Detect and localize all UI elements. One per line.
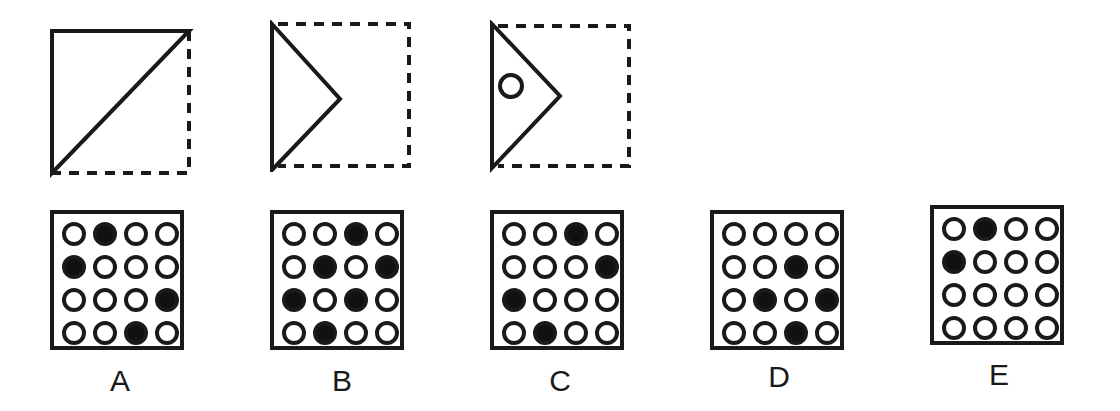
empty-circle-icon bbox=[722, 255, 746, 279]
empty-circle-icon bbox=[595, 288, 619, 312]
empty-circle-icon bbox=[1004, 250, 1028, 274]
empty-circle-icon bbox=[62, 321, 86, 345]
option-c-label: C bbox=[540, 364, 580, 398]
empty-circle-icon bbox=[124, 255, 148, 279]
filled-circle-icon bbox=[344, 222, 368, 246]
empty-circle-icon bbox=[282, 321, 306, 345]
empty-circle-icon bbox=[533, 222, 557, 246]
empty-circle-icon bbox=[1004, 316, 1028, 340]
empty-circle-icon bbox=[1004, 283, 1028, 307]
empty-circle-icon bbox=[564, 321, 588, 345]
empty-circle-icon bbox=[533, 255, 557, 279]
empty-circle-icon bbox=[62, 222, 86, 246]
empty-circle-icon bbox=[124, 222, 148, 246]
option-b-label: B bbox=[322, 364, 362, 398]
empty-circle-icon bbox=[722, 288, 746, 312]
filled-circle-icon bbox=[942, 250, 966, 274]
empty-circle-icon bbox=[815, 321, 839, 345]
filled-circle-icon bbox=[595, 255, 619, 279]
empty-circle-icon bbox=[784, 288, 808, 312]
option-b-grid[interactable] bbox=[270, 210, 404, 350]
empty-circle-icon bbox=[502, 222, 526, 246]
empty-circle-icon bbox=[973, 283, 997, 307]
empty-circle-icon bbox=[942, 316, 966, 340]
empty-circle-icon bbox=[344, 255, 368, 279]
empty-circle-icon bbox=[93, 321, 117, 345]
empty-circle-icon bbox=[973, 250, 997, 274]
empty-circle-icon bbox=[1035, 283, 1059, 307]
empty-circle-icon bbox=[815, 222, 839, 246]
dot-grid bbox=[722, 222, 839, 345]
empty-circle-icon bbox=[564, 288, 588, 312]
filled-circle-icon bbox=[155, 288, 179, 312]
empty-circle-icon bbox=[942, 217, 966, 241]
empty-circle-icon bbox=[155, 321, 179, 345]
empty-circle-icon bbox=[533, 288, 557, 312]
empty-circle-icon bbox=[564, 255, 588, 279]
dot-grid bbox=[62, 222, 179, 345]
empty-circle-icon bbox=[313, 222, 337, 246]
empty-circle-icon bbox=[973, 316, 997, 340]
option-d-label: D bbox=[759, 360, 799, 394]
empty-circle-icon bbox=[1035, 217, 1059, 241]
filled-circle-icon bbox=[375, 255, 399, 279]
empty-circle-icon bbox=[815, 255, 839, 279]
empty-circle-icon bbox=[124, 288, 148, 312]
empty-circle-icon bbox=[502, 255, 526, 279]
fold-step-1 bbox=[48, 26, 198, 178]
empty-circle-icon bbox=[722, 321, 746, 345]
empty-circle-icon bbox=[722, 222, 746, 246]
empty-circle-icon bbox=[375, 222, 399, 246]
filled-circle-icon bbox=[124, 321, 148, 345]
dot-grid bbox=[282, 222, 399, 345]
filled-circle-icon bbox=[313, 321, 337, 345]
empty-circle-icon bbox=[1035, 316, 1059, 340]
option-a-label: A bbox=[100, 364, 140, 398]
empty-circle-icon bbox=[93, 255, 117, 279]
option-d-grid[interactable] bbox=[710, 210, 844, 350]
empty-circle-icon bbox=[1004, 217, 1028, 241]
filled-circle-icon bbox=[93, 222, 117, 246]
option-a-grid[interactable] bbox=[50, 210, 184, 350]
filled-circle-icon bbox=[784, 321, 808, 345]
filled-circle-icon bbox=[564, 222, 588, 246]
empty-circle-icon bbox=[942, 283, 966, 307]
empty-circle-icon bbox=[93, 288, 117, 312]
empty-circle-icon bbox=[753, 222, 777, 246]
empty-circle-icon bbox=[375, 321, 399, 345]
filled-circle-icon bbox=[753, 288, 777, 312]
empty-circle-icon bbox=[595, 321, 619, 345]
empty-circle-icon bbox=[313, 288, 337, 312]
filled-circle-icon bbox=[973, 217, 997, 241]
empty-circle-icon bbox=[753, 321, 777, 345]
empty-circle-icon bbox=[595, 222, 619, 246]
filled-circle-icon bbox=[62, 255, 86, 279]
empty-circle-icon bbox=[155, 255, 179, 279]
filled-circle-icon bbox=[282, 288, 306, 312]
empty-circle-icon bbox=[753, 255, 777, 279]
dot-grid bbox=[502, 222, 619, 345]
empty-circle-icon bbox=[1035, 250, 1059, 274]
empty-circle-icon bbox=[282, 222, 306, 246]
filled-circle-icon bbox=[815, 288, 839, 312]
empty-circle-icon bbox=[282, 255, 306, 279]
fold-step-2 bbox=[268, 20, 416, 172]
filled-circle-icon bbox=[313, 255, 337, 279]
fold-step-3 bbox=[488, 20, 636, 176]
option-e-grid[interactable] bbox=[930, 205, 1064, 345]
empty-circle-icon bbox=[375, 288, 399, 312]
dot-grid bbox=[942, 217, 1059, 340]
filled-circle-icon bbox=[344, 288, 368, 312]
empty-circle-icon bbox=[784, 222, 808, 246]
option-e-label: E bbox=[979, 358, 1019, 392]
empty-circle-icon bbox=[155, 222, 179, 246]
punched-hole-icon bbox=[500, 75, 522, 97]
empty-circle-icon bbox=[344, 321, 368, 345]
empty-circle-icon bbox=[62, 288, 86, 312]
filled-circle-icon bbox=[784, 255, 808, 279]
option-c-grid[interactable] bbox=[490, 210, 624, 350]
empty-circle-icon bbox=[502, 321, 526, 345]
filled-circle-icon bbox=[502, 288, 526, 312]
filled-circle-icon bbox=[533, 321, 557, 345]
